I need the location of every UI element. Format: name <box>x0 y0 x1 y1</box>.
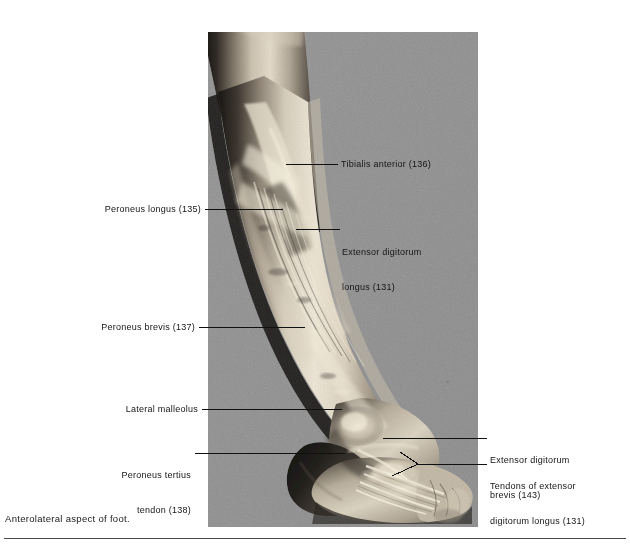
label-line-1: Extensor digitorum <box>342 247 422 259</box>
label-peroneus-tertius-tendon: Peroneus tertius tendon (138) <box>121 447 191 539</box>
figure-caption: Anterolateral aspect of foot. <box>5 513 130 524</box>
label-tibialis-anterior: Tibialis anterior (136) <box>341 159 431 171</box>
figure-page: Tibialis anterior (136) Extensor digitor… <box>0 0 630 559</box>
label-line-1: Tendons of extensor <box>490 481 585 493</box>
label-peroneus-brevis: Peroneus brevis (137) <box>101 322 195 334</box>
label-tendons-of-extensor-digitorum-longus: Tendons of extensor digitorum longus (13… <box>490 458 585 550</box>
label-line-1: Peroneus tertius <box>121 470 191 482</box>
footer-rule <box>4 538 626 539</box>
label-line-2: digitorum longus (131) <box>490 516 585 528</box>
label-lateral-malleolus: Lateral malleolus <box>126 404 198 416</box>
label-line-2: longus (131) <box>342 282 422 294</box>
label-extensor-digitorum-longus: Extensor digitorum longus (131) <box>342 224 422 316</box>
label-line-2: tendon (138) <box>121 505 191 517</box>
label-peroneus-longus: Peroneus longus (135) <box>105 204 201 216</box>
